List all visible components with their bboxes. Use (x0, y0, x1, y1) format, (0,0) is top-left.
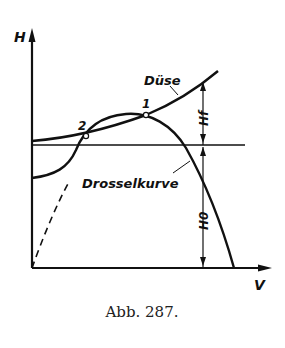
diagram-canvas: H V Düse Drosselkurve 1 2 Hf H0 Abb. 287… (0, 0, 285, 348)
nozzle-curve (32, 71, 218, 141)
arrow-up-icon (200, 147, 206, 156)
figure-caption: Abb. 287. (105, 303, 179, 321)
intersection-point-1 (143, 112, 148, 117)
axes (29, 28, 273, 272)
y-axis-arrow-icon (29, 28, 36, 42)
dimension-h0-label: H0 (197, 212, 211, 230)
throttle-curve-label: Drosselkurve (82, 176, 179, 191)
nozzle-label: Düse (144, 73, 181, 88)
dashed-extension-curve (32, 180, 70, 268)
y-axis-label: H (14, 29, 26, 45)
arrow-down-icon (200, 257, 206, 266)
intersection-point-2 (83, 133, 88, 138)
point-1-label: 1 (142, 97, 150, 111)
x-axis-arrow-icon (258, 265, 272, 272)
dimension-h0 (200, 147, 206, 268)
x-axis-label: V (254, 277, 266, 293)
throttle-label-leader (173, 161, 190, 173)
arrow-down-icon (200, 134, 206, 143)
point-2-label: 2 (78, 119, 86, 133)
dimension-hf-label: Hf (197, 109, 211, 126)
